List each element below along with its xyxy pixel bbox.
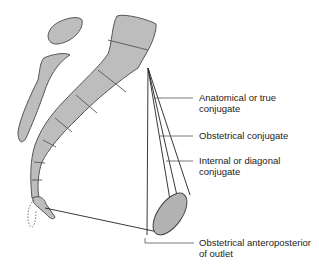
label-line: of outlet [199, 248, 311, 259]
ilium-fragment-upper [48, 18, 82, 44]
label-diagonal-conjugate: Internal or diagonal conjugate [199, 155, 280, 177]
label-anatomical-conjugate: Anatomical or true conjugate [199, 92, 276, 114]
label-outlet-diameter: Obstetrical anteroposterior of outlet [199, 237, 311, 259]
label-obstetrical-conjugate: Obstetrical conjugate [199, 130, 288, 141]
symphysis-pubis [146, 187, 193, 240]
label-line: Obstetrical conjugate [199, 130, 288, 141]
label-line: Obstetrical anteroposterior [199, 237, 311, 248]
label-line: conjugate [199, 166, 280, 177]
label-line: Anatomical or true [199, 92, 276, 103]
label-line: Internal or diagonal [199, 155, 280, 166]
label-line: conjugate [199, 103, 276, 114]
sacrum [31, 15, 156, 198]
